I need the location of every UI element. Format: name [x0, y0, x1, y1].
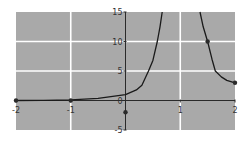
x-tick-label: 1 [178, 106, 183, 115]
function-plot: -5051015-2-112 [0, 0, 247, 141]
y-tick-label: 0 [117, 97, 122, 106]
y-tick-label: 15 [112, 8, 122, 17]
x-tick-label: -1 [67, 106, 75, 115]
y-tick-label: 10 [112, 38, 122, 47]
x-tick-label: 2 [232, 106, 237, 115]
y-tick-label: 5 [117, 67, 122, 76]
x-tick-label: -2 [12, 106, 20, 115]
data-marker [233, 81, 237, 85]
data-marker [123, 110, 127, 114]
y-tick-label: -5 [115, 126, 123, 135]
data-marker [14, 98, 18, 102]
data-marker [69, 98, 73, 102]
data-marker [205, 39, 209, 43]
